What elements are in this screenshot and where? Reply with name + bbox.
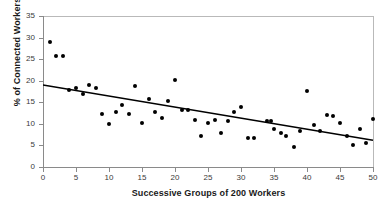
y-axis-title-wrapper: % of Connected Workers xyxy=(12,0,24,122)
x-tick-label: 25 xyxy=(196,174,220,182)
x-tick xyxy=(307,168,308,172)
x-tick xyxy=(274,168,275,172)
y-tick-label: 0 xyxy=(5,163,35,171)
x-tick xyxy=(373,168,374,172)
x-axis-title: Successive Groups of 200 Workers xyxy=(43,188,374,198)
x-tick xyxy=(76,168,77,172)
x-tick xyxy=(142,168,143,172)
x-tick xyxy=(241,168,242,172)
x-tick-label: 15 xyxy=(130,174,154,182)
y-axis-title: % of Connected Workers xyxy=(12,0,22,122)
x-tick-label: 5 xyxy=(64,174,88,182)
x-tick xyxy=(43,168,44,172)
x-tick-label: 20 xyxy=(163,174,187,182)
x-tick xyxy=(208,168,209,172)
scatter-chart: 05101520253035 05101520253035404550 Succ… xyxy=(0,0,390,207)
x-tick-label: 10 xyxy=(97,174,121,182)
x-tick xyxy=(175,168,176,172)
y-tick-label: 5 xyxy=(5,141,35,149)
trendline xyxy=(43,16,374,168)
x-tick-label: 30 xyxy=(229,174,253,182)
x-tick xyxy=(109,168,110,172)
x-tick-label: 0 xyxy=(31,174,55,182)
x-tick-label: 50 xyxy=(361,174,385,182)
x-tick-label: 40 xyxy=(295,174,319,182)
x-tick-label: 45 xyxy=(328,174,352,182)
x-tick xyxy=(340,168,341,172)
x-tick-label: 35 xyxy=(262,174,286,182)
